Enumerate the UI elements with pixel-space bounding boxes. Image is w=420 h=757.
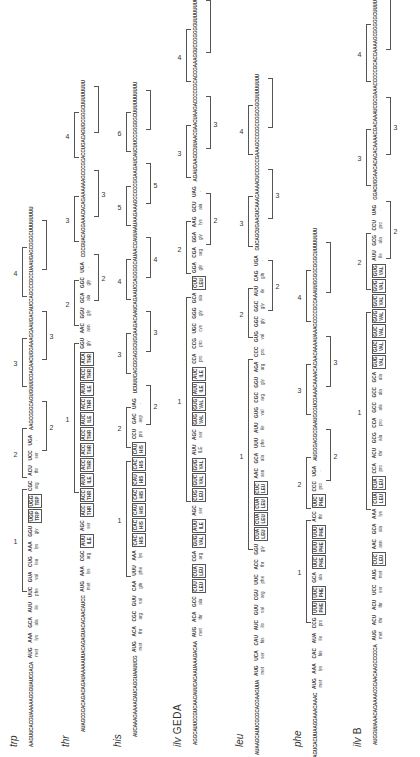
amino-acid: ala (378, 404, 384, 410)
regulatory-codon: AUCILE (192, 367, 206, 381)
operon-label: trp (8, 735, 19, 747)
codon: GGCgly (254, 314, 268, 328)
codon: GUGval (254, 406, 268, 420)
codon: AAAlys (28, 539, 42, 553)
stem-region-number: 1 (14, 538, 18, 545)
codon: AUGmet (312, 677, 326, 691)
amino-acid: HIS (139, 476, 145, 484)
codon: CAUhis (254, 633, 268, 647)
amino-acid: ile (378, 253, 384, 258)
stem-region-number: 1 (240, 452, 244, 459)
sequence-row-ilv-b: ilv BAUGGUUAAACACAAAACGCAACAAGCCCCCAAUGm… (350, 0, 402, 757)
trailer-3prime: AUGGGAGGCGAAUGCGUCGAAACAAAACACAACAAAAUAA… (313, 228, 318, 461)
codon: GGAgly (192, 230, 206, 244)
stem-region-bracket (126, 259, 131, 300)
amino-acid: gly (86, 340, 92, 346)
amino-acid: lys (198, 219, 204, 225)
leader-5prime: AUAAGCAUUCGCGCACGAAGUUA (255, 680, 260, 755)
stem-region-number: 2 (298, 480, 302, 487)
amino-acid: ala (198, 204, 204, 210)
stem-region-number: 4 (118, 277, 122, 284)
amino-acid: HIS (139, 536, 145, 544)
regulatory-codon: GUCVAL (372, 294, 386, 308)
codon: AUUile (254, 284, 268, 298)
amino-acid: pro (318, 483, 324, 490)
sequence-line: AAGUUCACGUAAAAAGGGUAUCGACAAUGmetAAAlysGC… (28, 207, 42, 747)
amino-acid: val (260, 410, 266, 416)
stem-region-number: 4 (358, 51, 362, 58)
amino-acid: gly (260, 546, 266, 552)
trailer-3prime: UCUUUCAGCGGAGGCUGGAAGACAAUCAGAAUCCAGGGGC… (133, 82, 138, 394)
regulatory-codon: ACCTHR (80, 367, 94, 381)
regulatory-codon: CUGLEU (192, 488, 206, 502)
codon: GGUgly (80, 306, 94, 320)
amino-acid: PHE (319, 588, 325, 597)
codon: UUUphe (132, 564, 146, 578)
stem-region-bracket (22, 489, 27, 592)
codon: GGGgly (192, 306, 206, 320)
amino-acid: THR (87, 506, 93, 515)
codon: AUGmet (372, 628, 386, 642)
stem-region-number: 4 (14, 270, 18, 277)
codon-list: AUGmetAAAlysCAChisAUAileCCGproUUUPHEUUCP… (312, 463, 326, 691)
amino-acid: his (260, 637, 266, 643)
operon-name: trp (8, 735, 19, 747)
codon-list: AUGmetAAAlysGCAalaAUUileUUCpheGUAvalCUGl… (28, 432, 42, 660)
amino-acid: gln (138, 583, 144, 589)
operon-name: leu (234, 734, 245, 747)
trailer-3prime: CGCGUACAGGAAACACAGAAAAAAGCCCGCACCUGACAGU… (81, 80, 86, 257)
amino-acid: val (138, 598, 144, 604)
regulatory-codon: UUUPHE (312, 540, 326, 554)
regulatory-codon: GUGVAL (372, 279, 386, 293)
amino-acid: gly (260, 303, 266, 309)
stem-region-bracket (366, 233, 371, 290)
amino-acid: met (86, 583, 92, 591)
stem-region-bracket (22, 247, 27, 297)
regulatory-codon: CACHIS (132, 488, 146, 502)
regulatory-codon: CUALEU (254, 527, 268, 541)
amino-acid: ser (260, 652, 266, 658)
stem-region-number: 3 (358, 155, 362, 162)
stem-region-bracket (186, 221, 191, 274)
stem-region-bracket (94, 254, 99, 300)
amino-acid: thr (378, 450, 384, 455)
stem-region-number: 2 (214, 216, 218, 223)
amino-acid: ile (260, 623, 266, 628)
amino-acid: LEU (379, 494, 385, 503)
codon: CUGleu (28, 555, 42, 569)
amino-acid: phe (260, 576, 266, 584)
codon: CGCarg (80, 549, 94, 563)
codon: GCAala (372, 370, 386, 384)
codon: CCGpro (312, 616, 326, 630)
codon: UAG· (192, 185, 206, 199)
codon: GCAala (372, 522, 386, 536)
amino-acid: LEU (379, 555, 385, 564)
codon: AUUile (254, 421, 268, 435)
amino-acid: lys (378, 511, 384, 517)
regulatory-codon: GUGVAL (192, 534, 206, 548)
codon: GCGala (372, 431, 386, 445)
amino-acid: val (260, 334, 266, 340)
operon-genes: B (352, 727, 363, 737)
amino-acid: met (260, 667, 266, 675)
stem-region-bracket (386, 0, 391, 50)
codon: CGAarg (192, 549, 206, 563)
stem-region-bracket (248, 105, 253, 155)
regulatory-codon: UGGTRP (28, 494, 42, 508)
trailer-3prime: AGAUCAAGCCUUAACGAACUAAGACCCCCGCACCGAAAGG… (193, 0, 198, 181)
leader-5prime: AGGCAUUCCGUCAACAUUCACAAUAAAGACAA (193, 641, 198, 745)
amino-acid: HIS (139, 521, 145, 529)
amino-acid: lys (34, 544, 40, 550)
amino-acid: TRP (35, 496, 41, 505)
regulatory-codon: CACHIS (132, 457, 146, 471)
trailer-3prime: GGACUGGAACACACACAAAACGACAAAUCGCGAAACCCCC… (373, 0, 378, 200)
regulatory-codon: UUUPHE (312, 525, 326, 539)
codon: UCAser (254, 649, 268, 663)
stem-region-bracket (146, 311, 151, 352)
codon-list: AUGmetACAthrGCCalaCUULEUCUALEUCGAargGUGV… (192, 183, 206, 639)
amino-acid: met (34, 649, 40, 657)
codon: CGUarg (254, 588, 268, 602)
amino-acid: pro (318, 620, 324, 627)
amino-acid: VAL (379, 266, 385, 275)
codon: UAG· (372, 203, 386, 217)
